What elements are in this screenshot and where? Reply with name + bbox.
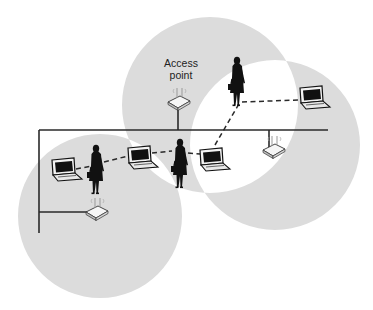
laptop-center-right[interactable] [200,148,230,171]
laptop-icon [200,148,230,171]
wireless-link [215,102,240,145]
wireless-link [242,100,298,102]
wireless-access-point-icon [263,136,285,159]
access-point-label-line1: Access [164,57,198,69]
wireless-link [188,153,200,154]
access-point-label-line2: point [170,69,193,81]
wireless-network-diagram: Access point [0,0,373,310]
access-point-right[interactable] [263,136,285,159]
